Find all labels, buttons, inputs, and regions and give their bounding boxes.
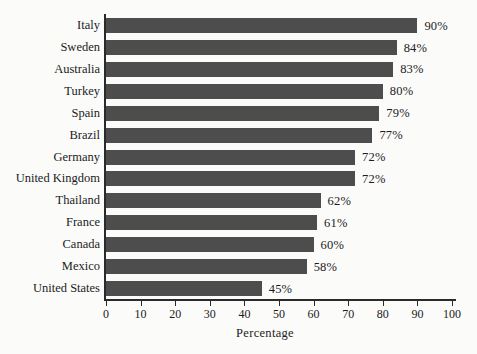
x-axis-tick [141, 301, 142, 306]
x-axis-tick [417, 301, 418, 306]
x-axis-tick [314, 301, 315, 306]
category-label: Sweden [60, 37, 100, 58]
category-label: Thailand [56, 190, 100, 211]
x-axis-tick-label: 60 [308, 307, 320, 322]
bar [106, 193, 321, 208]
category-label: United States [33, 278, 100, 299]
plot-area: 90%84%83%80%79%77%72%72%62%61%60%58%45% [106, 15, 452, 300]
bar-value-label: 60% [321, 237, 345, 252]
category-label: Turkey [64, 81, 100, 102]
bar-row: 58% [106, 256, 452, 277]
x-axis-tick [452, 301, 453, 306]
x-axis-tick-label: 70 [342, 307, 354, 322]
category-label: Germany [53, 147, 100, 168]
bar-value-label: 83% [400, 62, 424, 77]
bar-value-label: 62% [328, 193, 352, 208]
x-axis-tick [348, 301, 349, 306]
x-axis-tick [244, 301, 245, 306]
x-axis-title-text: Percentage [236, 326, 294, 341]
bar [106, 237, 314, 252]
bar [106, 215, 317, 230]
category-label: Italy [77, 15, 100, 36]
bar-value-label: 58% [314, 259, 338, 274]
bar-value-label: 79% [386, 106, 410, 121]
bar-row: 84% [106, 37, 452, 58]
bar [106, 62, 393, 77]
bar-row: 79% [106, 103, 452, 124]
category-label: France [66, 212, 100, 233]
x-axis-tick [383, 301, 384, 306]
category-label: United Kingdom [16, 168, 100, 189]
x-axis-tick-label: 90 [411, 307, 423, 322]
x-axis-tick [106, 301, 107, 306]
category-label-column: ItalySwedenAustraliaTurkeySpainBrazilGer… [0, 15, 100, 300]
bar-value-label: 90% [424, 18, 448, 33]
bar-row: 45% [106, 278, 452, 299]
x-axis-tick-label: 30 [204, 307, 216, 322]
x-axis-tick [279, 301, 280, 306]
bar [106, 128, 372, 143]
bar [106, 259, 307, 274]
bar [106, 18, 417, 33]
bar-row: 80% [106, 81, 452, 102]
category-label: Australia [54, 59, 100, 80]
x-axis-tick [210, 301, 211, 306]
bar [106, 106, 379, 121]
bar-value-label: 84% [404, 40, 428, 55]
x-axis-tick-label: 50 [273, 307, 285, 322]
bar-value-label: 61% [324, 215, 348, 230]
bar [106, 40, 397, 55]
bar-value-label: 45% [269, 281, 293, 296]
bar-row: 62% [106, 190, 452, 211]
bar [106, 84, 383, 99]
bar [106, 150, 355, 165]
bar-value-label: 72% [362, 172, 386, 187]
bar-row: 60% [106, 234, 452, 255]
bar-value-label: 77% [379, 128, 403, 143]
x-axis-tick-label: 40 [238, 307, 250, 322]
x-axis-tick-label: 80 [377, 307, 389, 322]
bar-row: 72% [106, 147, 452, 168]
bar-value-label: 80% [390, 84, 414, 99]
x-axis-tick-label: 100 [443, 307, 461, 322]
category-label: Spain [72, 103, 100, 124]
x-axis-tick [175, 301, 176, 306]
x-axis-tick-label: 0 [103, 307, 109, 322]
bar-row: 61% [106, 212, 452, 233]
bar-row: 77% [106, 125, 452, 146]
bar-chart: ItalySwedenAustraliaTurkeySpainBrazilGer… [0, 0, 477, 354]
category-label: Brazil [69, 125, 100, 146]
bar-value-label: 72% [362, 150, 386, 165]
bar-row: 83% [106, 59, 452, 80]
bar [106, 171, 355, 186]
bar-row: 72% [106, 168, 452, 189]
category-label: Mexico [62, 256, 100, 277]
bar-row: 90% [106, 15, 452, 36]
x-axis-tick-label: 10 [135, 307, 147, 322]
x-axis-tick-label: 20 [169, 307, 181, 322]
bar [106, 281, 262, 296]
category-label: Canada [63, 234, 100, 255]
